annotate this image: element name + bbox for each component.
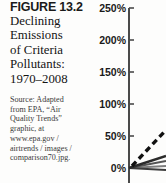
- figure-title-line: Pollutants:: [10, 57, 90, 71]
- figure-source-line: Quality Trends”: [10, 114, 90, 124]
- figure-title-line: of Criteria: [10, 43, 90, 57]
- figure-container: FIGURE 13.2 Declining Emissions of Crite…: [0, 0, 166, 183]
- figure-source-line: graphic, at: [10, 124, 90, 134]
- chart-plot-area: 250% 200% 150% 100% 50% 0%: [88, 0, 166, 183]
- figure-title-line: 1970–2008: [10, 72, 90, 86]
- figure-title-line: Emissions: [10, 28, 90, 42]
- series-line-aggregate-emissions: [129, 168, 166, 170]
- figure-title-line: Declining: [10, 14, 90, 28]
- chart-axis-and-series: [88, 0, 166, 183]
- figure-number: FIGURE 13.2: [10, 0, 90, 14]
- figure-source-line: comparison70.jpg.: [10, 153, 90, 163]
- figure-source-line: airtrends / images /: [10, 144, 90, 154]
- figure-source-line: from EPA, “Air: [10, 105, 90, 115]
- figure-source-note: Source: Adapted from EPA, “Air Quality T…: [10, 95, 90, 163]
- figure-caption-block: FIGURE 13.2 Declining Emissions of Crite…: [10, 0, 90, 163]
- figure-source-line: Source: Adapted: [10, 95, 90, 105]
- figure-source-line: www.epa.gov /: [10, 134, 90, 144]
- figure-title: Declining Emissions of Criteria Pollutan…: [10, 14, 90, 86]
